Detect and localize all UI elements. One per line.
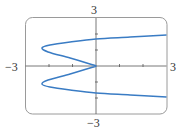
x-max-label: 3 [170, 61, 176, 73]
x-min-label: −3 [5, 61, 18, 73]
y-max-label: 3 [91, 4, 97, 16]
y-min-label: −3 [87, 117, 100, 129]
